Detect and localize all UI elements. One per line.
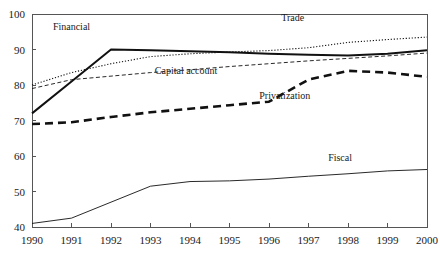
y-tick-label-80: 80: [14, 79, 26, 91]
x-tick-label-1999: 1999: [377, 234, 400, 246]
x-axis-tick-labels: 1990199119921993199419951996199719981999…: [21, 234, 439, 246]
x-tick-label-1991: 1991: [61, 234, 83, 246]
x-axis-ticks: [32, 223, 427, 227]
chart-figure: 405060708090100 199019911992199319941995…: [0, 0, 440, 253]
x-tick-label-1998: 1998: [337, 234, 360, 246]
series-line-fiscal: [32, 169, 427, 223]
series-label-capital-account: Capital account: [155, 65, 218, 76]
x-tick-label-1995: 1995: [219, 234, 242, 246]
y-tick-label-50: 50: [14, 186, 26, 198]
data-series-group: [32, 37, 427, 223]
y-tick-label-90: 90: [14, 44, 26, 56]
series-label-privatization: Privatization: [259, 90, 310, 101]
x-tick-label-1997: 1997: [298, 234, 321, 246]
x-tick-label-2000: 2000: [416, 234, 439, 246]
x-tick-label-1992: 1992: [100, 234, 122, 246]
y-tick-label-60: 60: [14, 150, 26, 162]
line-chart-svg: 405060708090100 199019911992199319941995…: [0, 0, 440, 253]
y-tick-label-70: 70: [14, 115, 26, 127]
y-axis-ticks: [32, 14, 36, 227]
series-line-financial: [32, 50, 427, 114]
x-tick-label-1994: 1994: [179, 234, 202, 246]
y-tick-label-100: 100: [9, 8, 26, 20]
x-tick-label-1993: 1993: [140, 234, 163, 246]
x-tick-label-1996: 1996: [258, 234, 281, 246]
x-tick-label-1990: 1990: [21, 234, 44, 246]
y-axis-tick-labels: 405060708090100: [9, 8, 26, 233]
series-label-financial: Financial: [53, 21, 90, 32]
series-line-privatization: [32, 71, 427, 124]
series-label-fiscal: Fiscal: [328, 152, 352, 163]
series-annotation-labels: TradeFinancialCapital accountPrivatizati…: [53, 12, 352, 163]
series-label-trade: Trade: [281, 12, 305, 23]
y-tick-label-40: 40: [14, 221, 26, 233]
